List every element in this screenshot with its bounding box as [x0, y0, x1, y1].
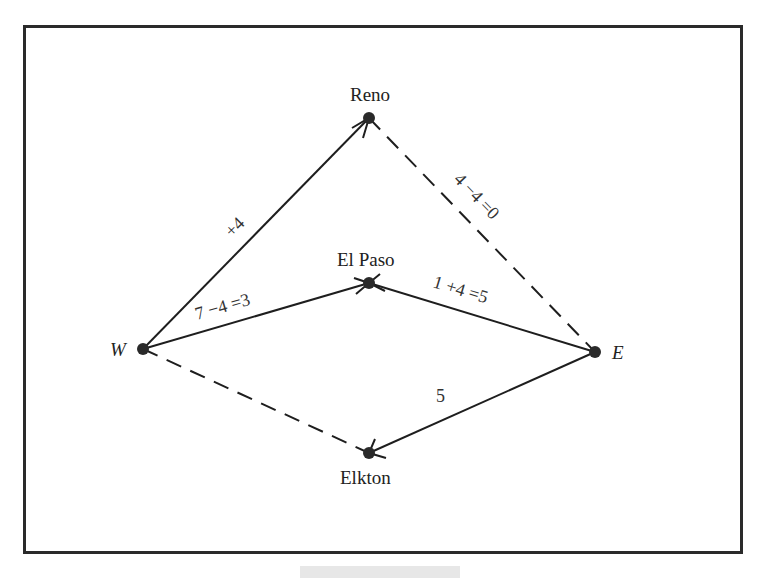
- edge-e-elkton: [369, 352, 595, 453]
- figure-caption-cropped: [300, 566, 460, 578]
- node-e: [589, 346, 601, 358]
- edge-label-e-elpaso: 1 +4 =5: [431, 272, 491, 308]
- edge-label-w-reno: +4: [221, 213, 249, 241]
- node-elpaso: [363, 277, 375, 289]
- label-elkton: Elkton: [340, 467, 391, 488]
- edge-label-reno-e: 4 −4 =0: [450, 169, 504, 223]
- label-reno: Reno: [350, 84, 390, 105]
- node-elkton: [363, 447, 375, 459]
- node-reno: [363, 112, 375, 124]
- label-e: E: [611, 342, 624, 363]
- edge-label-w-elpaso: 7 −4 =3: [193, 289, 253, 324]
- edge-label-e-elkton: 5: [436, 386, 445, 406]
- edge-w-reno: [143, 118, 369, 349]
- label-w: W: [110, 339, 128, 360]
- label-elpaso: El Paso: [337, 249, 395, 270]
- edge-w-elpaso: [143, 283, 369, 349]
- node-w: [137, 343, 149, 355]
- edge-w-elkton: [143, 349, 369, 453]
